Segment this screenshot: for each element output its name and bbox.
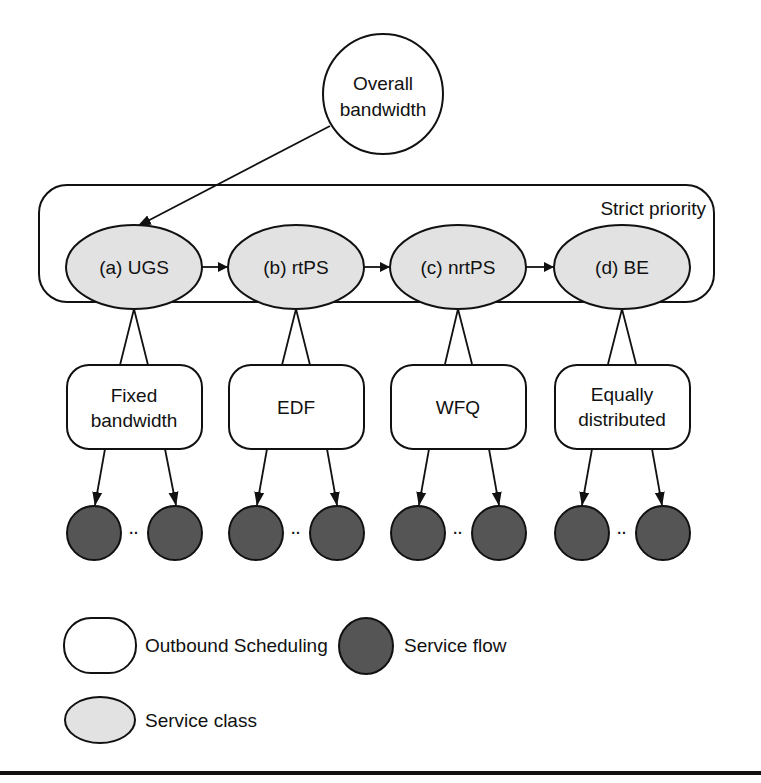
scheduler-wfq: WFQ: [391, 365, 526, 449]
service-class-swatch: [65, 697, 135, 743]
scheduler-line2: distributed: [578, 409, 666, 430]
legend-outbound-label: Outbound Scheduling: [145, 635, 328, 656]
outbound-scheduling-swatch: [64, 618, 136, 673]
flow-separator: ··: [617, 525, 626, 541]
legend-outbound-scheduling: Outbound Scheduling: [64, 618, 328, 673]
service-class-rtps: (b) rtPS: [228, 225, 364, 309]
service-flow: [229, 506, 283, 560]
scheduler-fixed-bandwidth: Fixed bandwidth: [67, 365, 202, 449]
service-flow: [148, 506, 202, 560]
flow-separator: ··: [129, 525, 138, 541]
flow-separator: ··: [453, 525, 462, 541]
service-class-nrtps: (c) nrtPS: [390, 225, 526, 309]
service-flow: [472, 506, 526, 560]
service-class-label: (a) UGS: [99, 257, 169, 278]
service-flow: [636, 506, 690, 560]
service-flow-swatch: [339, 618, 393, 674]
scheduling-diagram: Overall bandwidth Strict priority (a) UG…: [0, 0, 761, 783]
scheduler-edf: EDF: [229, 365, 364, 449]
strict-priority-label: Strict priority: [600, 198, 706, 219]
bottom-rule: [0, 771, 761, 775]
overall-bandwidth-line2: bandwidth: [340, 99, 427, 120]
legend-service-class: Service class: [65, 697, 257, 743]
service-flow: [310, 506, 364, 560]
legend-service-flow: Service flow: [339, 618, 507, 674]
scheduler-equally-distributed: Equally distributed: [555, 365, 690, 449]
service-flow: [67, 506, 121, 560]
legend: Outbound Scheduling Service flow Service…: [64, 618, 507, 743]
overall-bandwidth-node: Overall bandwidth: [323, 34, 443, 154]
flow-separator: ··: [291, 525, 300, 541]
scheduler-line2: bandwidth: [91, 410, 178, 431]
service-flows: ·· ·· ·· ··: [67, 506, 690, 560]
overall-bandwidth-line1: Overall: [353, 73, 413, 94]
service-flow: [555, 506, 609, 560]
service-class-be: (d) BE: [554, 225, 690, 309]
class-to-scheduler-connectors: [120, 309, 636, 365]
scheduler-line1: Fixed: [111, 385, 157, 406]
service-class-ugs: (a) UGS: [66, 225, 202, 309]
service-class-label: (d) BE: [595, 257, 649, 278]
bandwidth-to-ugs-arrow: [138, 126, 330, 226]
service-flow: [391, 506, 445, 560]
scheduler-line1: EDF: [277, 397, 315, 418]
scheduler-line1: WFQ: [436, 397, 480, 418]
scheduler-line1: Equally: [591, 384, 654, 405]
scheduler-to-flow-arrows: [95, 449, 662, 505]
service-class-label: (c) nrtPS: [421, 257, 496, 278]
legend-flow-label: Service flow: [404, 635, 507, 656]
legend-class-label: Service class: [145, 710, 257, 731]
service-class-label: (b) rtPS: [263, 257, 328, 278]
